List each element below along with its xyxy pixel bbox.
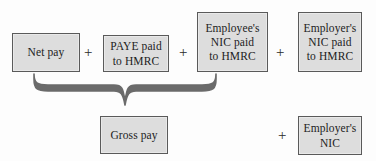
box-employer-nic-paid-to-hmrc: Employer's NIC paid to HMRC xyxy=(298,12,362,72)
box-employee-nic-paid-to-hmrc: Employee's NIC paid to HMRC xyxy=(197,12,268,72)
box-employer-nic: Employer's NIC xyxy=(298,116,362,155)
plus-operator-1: + xyxy=(84,45,92,60)
box-net-pay: Net pay xyxy=(12,33,80,72)
payroll-composition-diagram: Net pay + PAYE paid to HMRC + Employee's… xyxy=(0,0,376,161)
box-gross-pay: Gross pay xyxy=(100,116,168,154)
box-paye-paid-to-hmrc: PAYE paid to HMRC xyxy=(103,35,169,72)
plus-operator-3: + xyxy=(276,45,284,60)
plus-operator-4: + xyxy=(278,128,286,143)
plus-operator-2: + xyxy=(179,45,187,60)
grouping-brace-icon xyxy=(28,72,222,108)
